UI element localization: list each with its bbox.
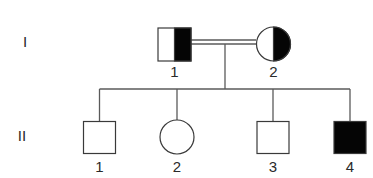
individual-number: 2 [269, 63, 277, 80]
individual-ii-4: 4 [334, 122, 366, 176]
individual-ii-2: 2 [160, 120, 194, 175]
relationship-lines [100, 40, 351, 122]
male-square-symbol [84, 122, 116, 154]
pedigree-diagram: III 121234 [0, 0, 373, 178]
female-circle-symbol [160, 120, 194, 154]
individual-number: 2 [173, 158, 181, 175]
generation-labels: III [18, 33, 27, 144]
carrier-half-fill [274, 27, 291, 61]
carrier-half-fill [175, 28, 192, 61]
individual-i-1: 1 [158, 28, 191, 80]
individual-ii-1: 1 [84, 122, 116, 176]
pedigree-svg: III 121234 [0, 0, 373, 178]
generation-label: II [18, 127, 26, 144]
individual-number: 4 [346, 158, 354, 175]
generation-label: I [23, 33, 27, 50]
individual-ii-3: 3 [257, 122, 289, 176]
male-square-symbol [257, 122, 289, 154]
individual-number: 3 [269, 158, 277, 175]
individual-i-2: 2 [257, 27, 291, 80]
male-square-symbol [334, 122, 366, 154]
individual-number: 1 [95, 158, 103, 175]
individual-number: 1 [170, 63, 178, 80]
